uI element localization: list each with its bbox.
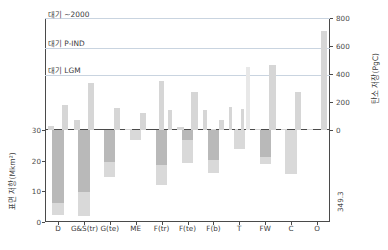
left-axis-tick-label: 0 [27, 218, 41, 227]
right-axis-tick-label: 400 [336, 70, 350, 79]
bar-area-upper-segment [156, 130, 167, 165]
bar-carbon-GStr-0 [74, 120, 80, 130]
bar-area-upper-segment [78, 130, 89, 192]
bottom-axis-tick [213, 222, 214, 225]
bottom-axis-tick [188, 222, 189, 225]
bar-area-GStr [78, 130, 89, 216]
bottom-axis-tick [317, 222, 318, 225]
bar-carbon-Gte-1 [114, 108, 120, 130]
right-axis-title: 탄소 저장(PgC) [369, 53, 380, 104]
surface-area-panel [45, 130, 330, 222]
bar-carbon-FW-1 [269, 65, 275, 130]
bar-carbon-Ftr-2 [168, 110, 172, 130]
bar-carbon-T-0 [229, 107, 232, 130]
bar-carbon-T-2 [241, 109, 244, 130]
annotation-349: 349.3 [336, 191, 345, 212]
bottom-axis-tick [265, 222, 266, 225]
bar-area-lower-segment [234, 130, 245, 149]
category-label-Fte: F(te) [175, 224, 201, 233]
bar-area-T [234, 130, 245, 149]
bottom-axis-tick [110, 222, 111, 225]
bar-carbon-Ftr-1 [159, 81, 163, 130]
bar-area-FW [260, 130, 271, 164]
bar-area-Fte [182, 130, 193, 163]
bar-carbon-Fb-0 [203, 110, 207, 130]
category-label-O: O [304, 224, 330, 233]
left-axis-tick [42, 130, 45, 131]
category-label-Gte: G(te) [97, 224, 123, 233]
bottom-axis-tick [291, 222, 292, 225]
bar-carbon-C-1 [295, 92, 301, 130]
bar-area-lower-segment [78, 192, 89, 216]
bar-carbon-O-1 [321, 31, 327, 130]
bar-area-upper-segment [182, 130, 193, 140]
bar-area-lower-segment [285, 130, 296, 174]
left-axis-tick-label: 30 [27, 126, 41, 135]
bar-area-lower-segment [130, 130, 141, 140]
left-axis-tick [42, 191, 45, 192]
category-label-Ftr: F(tr) [149, 224, 175, 233]
category-label-FW: FW [252, 224, 278, 233]
bar-carbon-Fb-2 [219, 120, 223, 130]
category-label-T: T [226, 224, 252, 233]
right-axis-tick-label: 0 [336, 126, 341, 135]
bottom-axis-tick [162, 222, 163, 225]
left-axis-title: 표면 저항(Mkm²) [6, 198, 17, 210]
carbon-storage-bars [45, 18, 330, 130]
surface-area-bars [45, 130, 330, 222]
bar-area-lower-segment [156, 165, 167, 186]
right-axis-tick-label: 800 [336, 14, 350, 23]
bar-carbon-GStr-1 [88, 83, 94, 130]
bar-carbon-D-1 [62, 105, 68, 130]
right-axis-tick [330, 46, 333, 47]
category-axis-labels: DG&S(tr)G(te)MEF(tr)F(te)F(b)TFWCO [45, 224, 330, 238]
right-axis-tick [330, 102, 333, 103]
right-axis-tick [330, 130, 333, 131]
bar-area-Ftr [156, 130, 167, 185]
bar-area-upper-segment [52, 130, 63, 203]
bar-area-C [285, 130, 296, 174]
bar-area-lower-segment [208, 160, 219, 173]
chart-figure: 대기 ~2000 대기 P-IND 대기 LGM 0200400600800 탄… [0, 0, 388, 250]
category-label-D: D [45, 224, 71, 233]
bar-carbon-Fte-1 [191, 92, 197, 130]
bar-area-D [52, 130, 63, 215]
bar-area-upper-segment [104, 130, 115, 162]
category-label-ME: ME [123, 224, 149, 233]
bottom-axis-tick [58, 222, 59, 225]
left-axis-tick [42, 161, 45, 162]
right-axis-tick-label: 200 [336, 98, 350, 107]
bar-area-lower-segment [182, 140, 193, 163]
bar-area-ME [130, 130, 141, 140]
bar-area-lower-segment [52, 203, 63, 215]
bar-carbon-T-3 [246, 67, 249, 130]
bottom-axis-tick [84, 222, 85, 225]
bar-carbon-ME-1 [140, 113, 146, 130]
right-axis-tick [330, 74, 333, 75]
bar-area-lower-segment [260, 157, 271, 164]
left-axis-tick [42, 222, 45, 223]
category-label-Fb: F(b) [200, 224, 226, 233]
bar-area-upper-segment [208, 130, 219, 160]
category-label-C: C [278, 224, 304, 233]
left-axis-tick-label: 20 [27, 157, 41, 166]
bottom-axis-tick [136, 222, 137, 225]
bar-area-lower-segment [104, 162, 115, 177]
bar-area-upper-segment [260, 130, 271, 157]
bottom-axis-tick [239, 222, 240, 225]
right-axis-tick [330, 18, 333, 19]
bar-area-Gte [104, 130, 115, 177]
right-axis-tick-label: 600 [336, 42, 350, 51]
left-axis-tick-label: 10 [27, 187, 41, 196]
carbon-storage-panel: 대기 ~2000 대기 P-IND 대기 LGM [45, 18, 330, 130]
category-label-GStr: G&S(tr) [71, 224, 97, 233]
bar-area-Fb [208, 130, 219, 173]
